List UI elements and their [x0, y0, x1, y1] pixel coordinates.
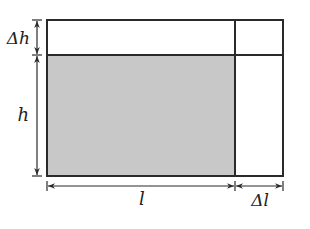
label-l: l — [139, 188, 145, 209]
label-delta-l: Δl — [250, 190, 269, 210]
label-h: h — [17, 104, 29, 125]
horizontal-dimension — [47, 181, 283, 191]
vertical-dimension — [32, 20, 42, 176]
shaded-original-area — [47, 55, 235, 176]
area-diagram: Δh h l Δl — [0, 0, 310, 229]
label-delta-h: Δh — [6, 28, 30, 48]
